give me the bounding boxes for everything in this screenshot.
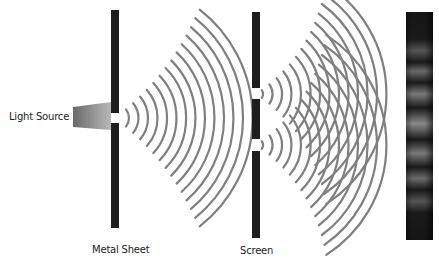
wave-arc <box>269 135 272 154</box>
metal-sheet-lower <box>111 123 119 228</box>
screen-middle <box>252 99 260 139</box>
light-source-label: Light Source <box>9 111 69 122</box>
wave-arc <box>195 18 243 218</box>
wave-arc <box>262 141 263 149</box>
wave-arc <box>262 90 263 98</box>
wave-arc <box>277 78 282 110</box>
wave-arc <box>126 109 129 126</box>
interference-pattern-detector <box>406 12 433 240</box>
wave-arc <box>277 129 282 161</box>
double-slit-diagram <box>0 0 439 260</box>
wave-arc <box>133 103 138 133</box>
metal-sheet-upper <box>111 10 119 113</box>
wave-arc <box>283 123 291 168</box>
wave-arc <box>153 83 167 153</box>
metal-sheet <box>111 10 119 228</box>
wave-fronts-double-slit <box>262 0 387 255</box>
wave-arc <box>200 10 253 227</box>
metal-sheet-label: Metal Sheet <box>92 244 150 255</box>
light-source-beam <box>73 102 111 130</box>
wave-arc <box>283 72 291 117</box>
wave-fronts-single-slit <box>126 10 253 227</box>
screen-lower <box>252 151 260 238</box>
screen-upper <box>252 12 260 88</box>
double-slit-screen <box>252 12 260 238</box>
wave-arc <box>140 97 148 140</box>
screen-label: Screen <box>240 245 273 256</box>
wave-arc <box>269 84 272 103</box>
